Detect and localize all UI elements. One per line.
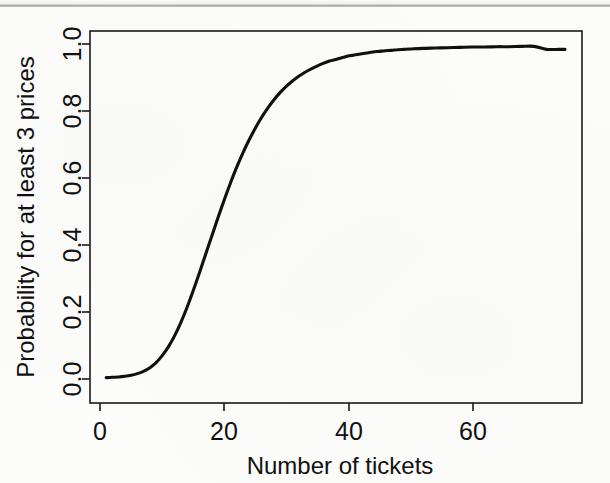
y-axis-tick-labels: 1.0 0.8 0.6 0.4 0.2 0.0 xyxy=(58,27,86,397)
y-tick-label-0.2: 0.2 xyxy=(58,295,86,330)
y-tick-label-0.0: 0.0 xyxy=(58,362,86,397)
probability-line-chart: 1.0 0.8 0.6 0.4 0.2 0.0 0 20 40 60 Numbe… xyxy=(0,0,610,483)
x-axis-tick-labels: 0 20 40 60 xyxy=(93,417,487,445)
x-tick-label-60: 60 xyxy=(459,417,487,445)
y-tick-label-0.4: 0.4 xyxy=(58,228,86,263)
x-tick-label-20: 20 xyxy=(210,417,238,445)
x-tick-label-0: 0 xyxy=(93,417,107,445)
y-tick-label-0.6: 0.6 xyxy=(58,161,86,196)
x-axis-ticks xyxy=(100,403,473,411)
y-axis-title: Probability for at least 3 prices xyxy=(12,56,39,377)
probability-curve xyxy=(106,46,565,378)
y-tick-label-1.0: 1.0 xyxy=(58,27,86,62)
x-tick-label-40: 40 xyxy=(335,417,363,445)
plot-frame-box xyxy=(90,31,582,403)
x-axis-title: Number of tickets xyxy=(247,452,434,479)
y-tick-label-0.8: 0.8 xyxy=(58,94,86,129)
